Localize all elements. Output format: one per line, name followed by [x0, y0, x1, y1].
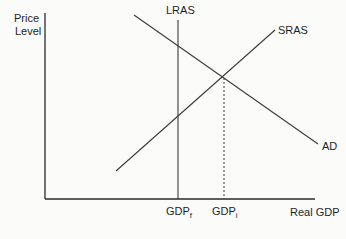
y-axis-label-line1: Price — [14, 12, 39, 24]
x-tick-gdp-f: GDPf — [166, 205, 193, 220]
ad-label: AD — [322, 140, 337, 152]
x-tick-gdp-i: GDPi — [212, 205, 238, 220]
ad-as-diagram: Price Level LRAS SRAS AD GDPf GDPi Real … — [0, 0, 346, 239]
sras-curve — [116, 30, 275, 171]
x-axis-label: Real GDP — [290, 206, 340, 218]
y-axis-label-line2: Level — [15, 25, 41, 37]
sras-label: SRAS — [278, 24, 308, 36]
lras-label: LRAS — [166, 4, 195, 16]
